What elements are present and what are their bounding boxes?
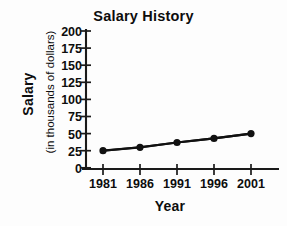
salary-history-chart: Salary History Salary (in thousands of d… [0,0,287,226]
x-axis-label: Year [60,198,280,214]
x-tick-label: 2001 [229,178,273,191]
x-axis-tick-labels: 1981 1986 1991 1996 2001 [0,0,287,226]
